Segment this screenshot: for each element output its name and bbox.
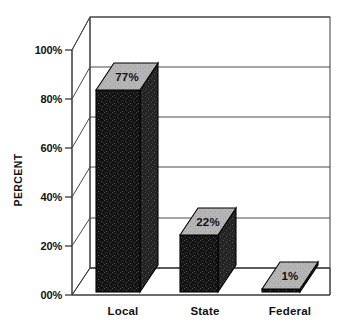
category-label-local: Local [107,305,138,317]
y-tick-label-80: 80% [41,93,63,105]
y-tick-label-20: 20% [41,240,63,252]
gridline-depth-80 [72,67,90,99]
bar-state-value-label: 22% [196,216,220,228]
bar-local-front [96,90,140,292]
y-tick-label-40: 40% [41,191,63,203]
chart-canvas: 100% 80% 60% 40% 20% 00% PERCENT 77% 22% [0,0,340,328]
y-axis-title: PERCENT [12,153,24,206]
category-label-state: State [190,305,219,317]
x-axis-category-labels: Local State Federal [107,305,311,317]
bar-chart: 100% 80% 60% 40% 20% 00% PERCENT 77% 22% [0,0,340,328]
y-tick-label-100: 100% [35,44,63,56]
y-axis-tick-labels: 100% 80% 60% 40% 20% 00% [35,44,63,301]
bar-state-front [180,235,218,292]
gridline-depth-60 [72,117,90,148]
bar-local[interactable]: 77% [96,63,158,292]
left-wall [72,17,90,295]
category-label-federal: Federal [269,305,311,317]
gridline-depth-40 [72,167,90,197]
bar-local-side [140,63,158,292]
bar-state[interactable]: 22% [180,208,236,292]
gridline-depth-100 [72,17,90,50]
bar-local-value-label: 77% [115,71,139,83]
bar-federal[interactable]: 1% [262,262,318,292]
bar-federal-value-label: 1% [281,270,298,282]
y-tick-label-0: 00% [41,289,63,301]
gridline-depth-20 [72,218,90,246]
y-tick-label-60: 60% [41,142,63,154]
y-axis-ticks [65,50,72,295]
